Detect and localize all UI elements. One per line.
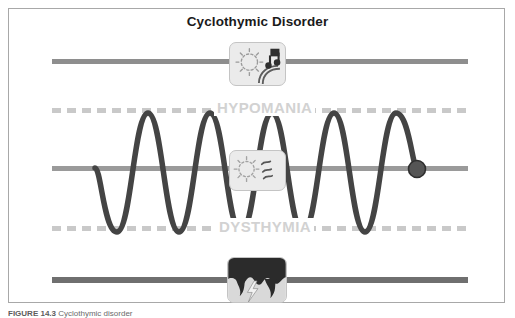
figure-caption: FIGURE 14.3 Cyclothymic disorder [8,309,408,318]
figure-root: Cyclothymic Disorder HYPOMANIA DYSTHYMIA [0,0,515,318]
hypomania-label: HYPOMANIA [214,99,315,116]
dysthymia-label: DYSTHYMIA [216,218,314,235]
figure-caption-number: FIGURE 14.3 [8,309,56,318]
storm-cloud-lightning-icon [227,257,287,303]
figure-caption-text: Cyclothymic disorder [58,309,132,318]
sun-music-note-icon [229,42,286,86]
sun-partly-icon [229,150,286,191]
page-title: Cyclothymic Disorder [0,14,515,29]
